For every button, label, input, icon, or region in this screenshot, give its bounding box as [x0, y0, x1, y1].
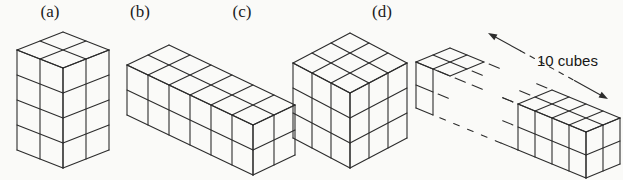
figure-c-cuboid — [293, 33, 407, 168]
cube-figures-drawing — [0, 0, 623, 180]
diagram-canvas: (a) (b) (c) (d) 10 cubes — [0, 0, 623, 180]
figure-label-d: (d) — [352, 2, 412, 22]
figure-label-a: (a) — [20, 2, 80, 22]
figure-a-cuboid — [17, 32, 109, 168]
figure-label-c: (c) — [212, 2, 272, 22]
cube-count-annotation: 10 cubes — [537, 52, 598, 70]
figure-label-b: (b) — [110, 2, 170, 22]
figure-b-cuboid — [127, 45, 295, 175]
